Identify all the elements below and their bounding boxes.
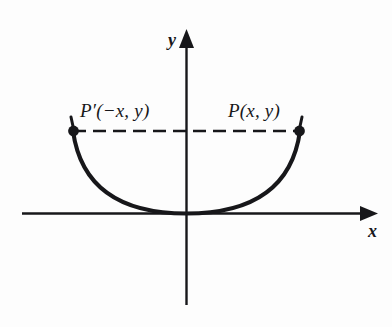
point-marker-p-prime	[68, 126, 79, 137]
point-label-p: P(x, y)	[228, 101, 280, 120]
y-axis-label: y	[168, 31, 176, 49]
y-axis-arrow-icon	[179, 29, 194, 48]
figure-canvas	[0, 0, 392, 327]
x-axis-label: x	[368, 222, 377, 240]
point-label-p-prime: P′(−x, y)	[80, 101, 149, 120]
x-axis-arrow-icon	[360, 206, 378, 221]
point-marker-p	[294, 126, 305, 137]
parabola-symmetry-figure: P′(−x, y) P(x, y) y x	[0, 0, 392, 327]
